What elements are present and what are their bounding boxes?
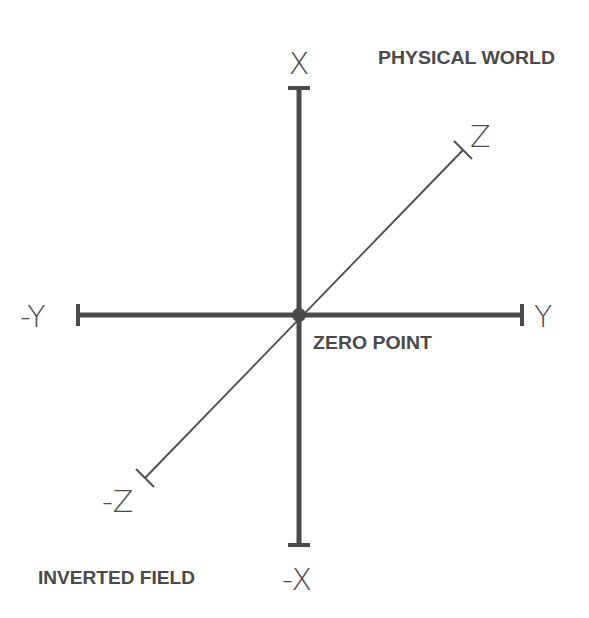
coordinate-diagram: X -X -Y Y Z -Z PHYSICAL WORLD ZERO POINT… [0,0,589,618]
zero-point-label: ZERO POINT [313,333,432,353]
x-positive-label: X [289,46,310,81]
z-positive-label: Z [470,119,491,154]
z-negative-label: -Z [102,484,133,519]
y-negative-label: -Y [20,299,46,334]
zero-point-dot [292,308,306,322]
physical-world-label: PHYSICAL WORLD [378,48,555,68]
y-positive-label: Y [534,299,552,334]
inverted-field-label: INVERTED FIELD [38,568,195,588]
x-negative-label: -X [282,562,312,597]
